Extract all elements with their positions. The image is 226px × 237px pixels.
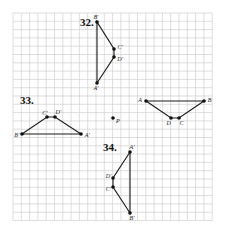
vertex-point (202, 99, 206, 103)
quadrilateral-outline (22, 117, 81, 134)
quadrilateral-outline (97, 22, 114, 83)
vertex-point (45, 115, 49, 119)
coordinate-grid-diagram: ABCDA'B'C'D'32.A'B'C'D'33.A'B'C'D'34.P (0, 0, 226, 237)
vertex-point (111, 185, 115, 189)
vertex-label: D (165, 120, 171, 126)
vertex-label: B' (14, 132, 20, 138)
vertex-label: D' (54, 109, 61, 115)
vertex-label: B' (93, 14, 99, 20)
vertex-label: A' (92, 85, 99, 91)
vertex-point (53, 115, 57, 119)
vertex-label: D' (116, 56, 123, 62)
vertex-label: C (180, 120, 185, 126)
vertex-label: B (208, 97, 212, 103)
vertex-point (79, 132, 83, 136)
vertex-point (20, 132, 24, 136)
center-point-p (111, 116, 115, 120)
original-figure-abcd (144, 99, 206, 120)
quadrilaterals (20, 20, 206, 215)
vertex-point (112, 47, 116, 51)
vertex-point (95, 20, 99, 24)
vertex-label: A' (84, 132, 91, 138)
problem-number: 32. (80, 16, 94, 28)
vertex-point (128, 150, 132, 154)
problem-number: 34. (103, 141, 117, 153)
vertex-label: C' (117, 44, 123, 50)
problem-number: 33. (20, 94, 34, 106)
vertex-label: D' (105, 173, 112, 179)
vertex-point (112, 55, 116, 59)
vertex-label: B' (130, 215, 136, 221)
vertex-label: C' (42, 110, 48, 116)
vertex-label: C' (106, 186, 112, 192)
vertex-point (111, 176, 115, 180)
vertex-point (144, 99, 148, 103)
rotated-figure-problem-34 (111, 150, 132, 215)
vertex-label: A' (129, 144, 136, 150)
vertex-label: A (137, 97, 142, 103)
center-point-label: P (115, 118, 120, 124)
